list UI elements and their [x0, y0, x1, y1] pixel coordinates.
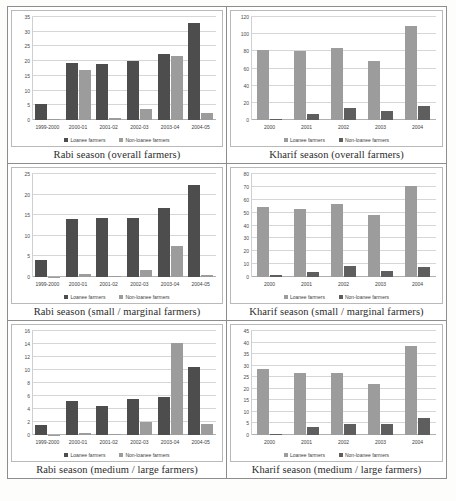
bar-group	[288, 331, 325, 435]
bar-series-container	[251, 174, 436, 277]
legend-label: Loanee farmers	[70, 451, 105, 459]
bar	[368, 384, 380, 435]
bar-group	[251, 331, 288, 435]
x-axis-tick-label: 2001	[288, 279, 325, 289]
bar-group	[93, 331, 124, 435]
bar	[35, 104, 47, 120]
legend-item: Non-loanee farmers	[119, 136, 169, 144]
y-axis-tick-label: 60	[243, 66, 249, 71]
x-axis-tick-label: 2003	[362, 279, 399, 289]
bar	[294, 209, 306, 277]
chart-cell: 05101520251999-20002000-012001-022002-03…	[8, 164, 227, 321]
y-axis-tick-label: 0	[246, 275, 249, 280]
legend-swatch-icon	[119, 295, 123, 299]
bar	[96, 406, 108, 435]
x-axis-tick-label: 2002	[325, 437, 362, 447]
bar-chart: 05101520253035404520002001200220032004Lo…	[230, 324, 443, 462]
y-axis-tick-label: 0	[27, 275, 30, 280]
bar	[127, 399, 139, 435]
x-axis-tick-label: 1999-2000	[32, 122, 63, 132]
bar-group	[185, 174, 216, 277]
legend-swatch-icon	[339, 453, 343, 457]
y-axis-tick-label: 30	[243, 236, 249, 241]
x-axis-tick-label: 2000-01	[63, 437, 94, 447]
y-axis-tick-label: 2	[27, 420, 30, 425]
legend-label: Loanee farmers	[290, 136, 325, 144]
y-axis-tick-label: 6	[27, 394, 30, 399]
y-axis-tick-label: 40	[243, 83, 249, 88]
y-axis-tick-label: 80	[243, 49, 249, 54]
bar-group	[124, 331, 155, 435]
bar-series-container	[251, 331, 436, 435]
bar	[270, 434, 282, 435]
plot-area: 0246810121416	[32, 331, 216, 435]
bar-group	[325, 174, 362, 277]
legend-swatch-icon	[119, 453, 123, 457]
bar	[418, 106, 430, 120]
y-axis-tick-label: 50	[243, 210, 249, 215]
bar	[294, 51, 306, 120]
x-axis-tick-label: 2004-05	[185, 437, 216, 447]
bar	[368, 61, 380, 120]
bar-series-container	[32, 174, 216, 277]
x-axis-tick-label: 2003-04	[155, 279, 186, 289]
y-axis-tick-label: 0	[246, 433, 249, 438]
bar	[171, 343, 183, 435]
bar	[188, 185, 200, 277]
y-axis-tick-label: 15	[24, 213, 30, 218]
bar-chart: 02040608010012020002001200220032004Loane…	[230, 10, 443, 147]
x-axis-tick-label: 2004	[399, 122, 436, 132]
x-axis-tick-label: 2001-02	[93, 279, 124, 289]
chart-cell: 02040608010012020002001200220032004Loane…	[227, 7, 446, 164]
chart-caption: Rabi season (overall farmers)	[11, 147, 223, 162]
y-axis-tick-label: 60	[243, 197, 249, 202]
bar	[344, 108, 356, 120]
x-axis-tick-label: 2002-03	[124, 122, 155, 132]
x-axis-tick-label: 2001	[288, 122, 325, 132]
bar	[381, 111, 393, 120]
bar	[188, 367, 200, 435]
x-axis-labels: 20002001200220032004	[251, 437, 436, 447]
x-axis-tick-label: 2002	[325, 279, 362, 289]
x-axis-labels: 20002001200220032004	[251, 122, 436, 132]
chart-legend: Loanee farmersNon-loanee farmers	[231, 136, 442, 144]
legend-label: Non-loanee farmers	[345, 293, 389, 301]
x-axis-tick-label: 2000	[251, 437, 288, 447]
legend-swatch-icon	[284, 453, 288, 457]
legend-label: Non-loanee farmers	[345, 136, 389, 144]
bar-group	[325, 331, 362, 435]
y-axis-tick-label: 4	[27, 407, 30, 412]
legend-swatch-icon	[284, 138, 288, 142]
chart-legend: Loanee farmersNon-loanee farmers	[231, 451, 442, 459]
x-axis-tick-label: 2004-05	[185, 279, 216, 289]
y-axis-tick-label: 25	[243, 375, 249, 380]
y-axis-tick-label: 10	[24, 233, 30, 238]
y-axis-tick-label: 5	[27, 254, 30, 259]
y-axis-tick-label: 80	[243, 172, 249, 177]
chart-caption: Kharif season (small / marginal farmers)	[230, 304, 443, 319]
bar-group	[155, 174, 186, 277]
legend-item: Loanee farmers	[64, 136, 105, 144]
x-axis-tick-label: 2000-01	[63, 122, 94, 132]
bar-group	[93, 174, 124, 277]
x-axis-labels: 1999-20002000-012001-022002-032003-04200…	[32, 122, 216, 132]
bar	[294, 373, 306, 435]
bar	[257, 50, 269, 120]
bar	[344, 266, 356, 277]
bar	[158, 208, 170, 277]
bar-group	[362, 174, 399, 277]
bar	[201, 113, 213, 120]
y-axis-tick-label: 120	[241, 15, 249, 20]
legend-label: Non-loanee farmers	[125, 451, 169, 459]
bar-group	[362, 17, 399, 120]
plot-area: 020406080100120	[251, 17, 436, 120]
x-axis-tick-label: 2003-04	[155, 437, 186, 447]
bar-series-container	[251, 17, 436, 120]
legend-swatch-icon	[64, 453, 68, 457]
y-axis-tick-label: 10	[243, 409, 249, 414]
bar	[140, 422, 152, 435]
x-axis-tick-label: 1999-2000	[32, 279, 63, 289]
y-axis-tick-label: 45	[243, 329, 249, 334]
bar	[79, 70, 91, 120]
bar	[368, 215, 380, 277]
